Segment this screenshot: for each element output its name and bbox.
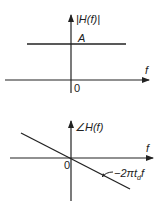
phase-origin-label: 0 <box>64 160 70 171</box>
phase-line-label: −2πtdf <box>114 168 144 181</box>
phase-y-label: ∠H(f) <box>75 122 103 133</box>
phase-plot <box>10 121 153 201</box>
phase-x-label: f <box>146 143 149 154</box>
magnitude-y-label: |H(f)| <box>76 14 100 25</box>
magnitude-level-label: A <box>78 33 85 44</box>
magnitude-x-label: f <box>145 65 148 76</box>
magnitude-origin-label: 0 <box>74 83 80 94</box>
